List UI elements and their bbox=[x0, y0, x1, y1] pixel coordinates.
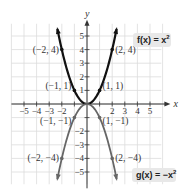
x-tick-label: −5 bbox=[19, 106, 29, 116]
data-point bbox=[73, 116, 77, 120]
x-axis-label: x bbox=[172, 98, 178, 109]
x-axis-arrow-icon bbox=[164, 102, 170, 107]
y-tick-label: 5 bbox=[80, 31, 85, 41]
data-point bbox=[60, 157, 64, 161]
data-point bbox=[98, 89, 102, 93]
y-axis-arrow-icon bbox=[85, 20, 90, 26]
data-point bbox=[110, 157, 114, 161]
point-label: (2, −4) bbox=[115, 153, 141, 164]
x-tick-label: 2 bbox=[110, 106, 115, 116]
f-label: f(x) = x2 bbox=[137, 34, 170, 45]
y-tick-label: 3 bbox=[80, 58, 85, 68]
y-tick-label: −5 bbox=[74, 167, 84, 177]
x-tick-label: 3 bbox=[123, 106, 128, 116]
point-label: (−1, −1) bbox=[40, 116, 71, 127]
y-tick-label: 4 bbox=[80, 45, 85, 55]
point-label: (2, 4) bbox=[115, 45, 136, 56]
x-tick-label: 4 bbox=[135, 106, 140, 116]
y-axis-label: y bbox=[84, 8, 90, 19]
point-label: (−2, 4) bbox=[33, 45, 59, 56]
g-label: g(x) = −x2 bbox=[136, 169, 177, 180]
x-tick-label: −4 bbox=[32, 106, 42, 116]
data-point bbox=[73, 89, 77, 93]
curve-arrow-icon bbox=[56, 174, 61, 181]
point-label: (−2, −4) bbox=[28, 153, 59, 164]
curve-arrow-icon bbox=[113, 174, 118, 181]
point-label: (1, −1) bbox=[103, 116, 129, 127]
y-tick-label: −4 bbox=[74, 153, 84, 163]
y-tick-label: −2 bbox=[74, 126, 84, 136]
curve-arrow-icon bbox=[113, 27, 118, 34]
x-tick-label: −2 bbox=[57, 106, 67, 116]
data-point bbox=[110, 48, 114, 52]
point-label: (−1, 1) bbox=[45, 81, 71, 92]
function-graph: xy−5−4−3−2234554321−2−3−4−5 (−2, 4)(−1, … bbox=[0, 0, 188, 193]
data-point bbox=[60, 48, 64, 52]
y-tick-label: −3 bbox=[74, 140, 84, 150]
x-tick-label: 5 bbox=[148, 106, 153, 116]
x-tick-label: −3 bbox=[44, 106, 54, 116]
data-point bbox=[98, 116, 102, 120]
curve-arrow-icon bbox=[56, 27, 61, 34]
point-label: (1, 1) bbox=[103, 81, 124, 92]
y-tick-label: 1 bbox=[80, 85, 85, 95]
exponent: 2 bbox=[173, 169, 177, 175]
y-tick-label: 2 bbox=[80, 72, 85, 82]
